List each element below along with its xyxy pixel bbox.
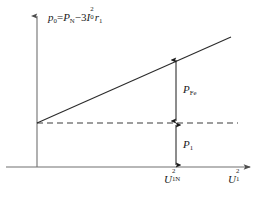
pfe-subscript: Fe [190,89,197,96]
formula-i-subscript: 0 [90,14,93,21]
pfe-symbol: P [183,83,190,95]
u1n-indices: 21N [172,172,177,183]
u1n-subscript: 1N [172,176,180,183]
plot-canvas [0,0,269,199]
x-tick-label-u1n: U21N [164,172,177,185]
formula-r-subscript: 1 [99,17,102,24]
u1-subscript: 1 [236,176,239,183]
u1n-symbol: U [164,173,172,185]
u1-symbol: U [228,173,236,185]
figure-container: p0=PN−3I20r1 PFe P1 U21N U21 [0,0,269,199]
formula-pn-symbol: P [63,11,70,23]
u1-indices: 21 [236,172,241,183]
formula-i-indices: 20 [90,10,95,21]
x-axis-label: U21 [228,172,241,185]
p1-subscript: 1 [190,144,193,151]
p1-label: P1 [183,139,193,150]
pfe-label: PFe [183,84,197,95]
p1-symbol: P [183,138,190,150]
p0-line [37,37,231,123]
formula-label: p0=PN−3I20r1 [48,10,102,23]
